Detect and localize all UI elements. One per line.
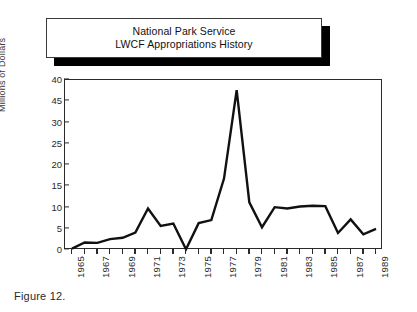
y-tick-label: 10	[28, 201, 62, 212]
appropriations-line-series	[65, 80, 383, 250]
x-tick-mark	[210, 249, 211, 254]
x-tick-mark	[185, 249, 186, 254]
data-line	[72, 90, 376, 249]
chart-title-line-1: National Park Service	[132, 25, 235, 38]
x-tick-mark	[274, 249, 275, 254]
figure-container: National Park Service LWCF Appropriation…	[0, 0, 417, 312]
x-tick-mark	[71, 249, 72, 254]
x-tick-mark	[198, 249, 199, 254]
x-tick-mark	[299, 249, 300, 254]
x-tick-mark	[122, 249, 123, 254]
x-tick-label: 1977	[227, 256, 238, 278]
x-tick-mark	[160, 249, 161, 254]
x-tick-label: 1983	[303, 256, 314, 278]
figure-caption: Figure 12.	[14, 290, 66, 302]
x-tick-label: 1989	[379, 256, 390, 278]
x-tick-label: 1971	[151, 256, 162, 278]
y-tick-label: 45	[28, 95, 62, 106]
y-axis-tick-labels: 4045302520151050	[22, 79, 62, 249]
x-tick-mark	[147, 249, 148, 254]
x-tick-mark	[350, 249, 351, 254]
y-tick-label: 15	[28, 180, 62, 191]
x-tick-label: 1967	[100, 256, 111, 278]
chart-title-box: National Park Service LWCF Appropriation…	[46, 18, 322, 58]
y-tick-label: 5	[28, 222, 62, 233]
plot-inner	[65, 80, 381, 248]
x-tick-mark	[84, 249, 85, 254]
y-tick-label: 20	[28, 159, 62, 170]
plot-area	[64, 79, 382, 249]
x-tick-mark	[324, 249, 325, 254]
x-tick-label: 1965	[75, 256, 86, 278]
x-tick-label: 1975	[202, 256, 213, 278]
x-tick-mark	[96, 249, 97, 254]
x-tick-mark	[261, 249, 262, 254]
x-tick-label: 1979	[252, 256, 263, 278]
x-tick-mark	[172, 249, 173, 254]
y-tick-label: 30	[28, 116, 62, 127]
x-tick-mark	[286, 249, 287, 254]
x-tick-label: 1969	[126, 256, 137, 278]
x-tick-mark	[312, 249, 313, 254]
x-tick-mark	[375, 249, 376, 254]
x-tick-mark	[223, 249, 224, 254]
y-tick-label: 0	[28, 244, 62, 255]
x-tick-mark	[248, 249, 249, 254]
y-tick-label: 25	[28, 137, 62, 148]
x-tick-mark	[236, 249, 237, 254]
x-tick-label: 1985	[328, 256, 339, 278]
x-tick-mark	[362, 249, 363, 254]
y-axis-title: Millions of Dollars	[0, 0, 7, 112]
x-tick-label: 1987	[354, 256, 365, 278]
x-tick-label: 1981	[278, 256, 289, 278]
x-tick-mark	[109, 249, 110, 254]
chart-title-line-2: LWCF Appropriations History	[115, 38, 252, 51]
x-tick-label: 1973	[176, 256, 187, 278]
y-tick-label: 40	[28, 74, 62, 85]
x-tick-mark	[337, 249, 338, 254]
x-tick-mark	[134, 249, 135, 254]
